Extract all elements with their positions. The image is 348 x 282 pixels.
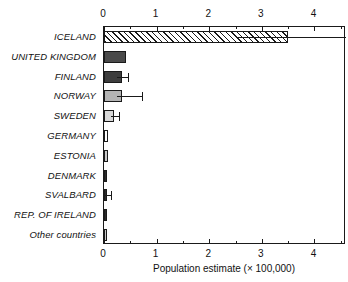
- bot-axis-tick: [130, 241, 131, 244]
- bot-axis-tick: [209, 239, 210, 244]
- x-axis-title: Population estimate (× 100,000): [103, 263, 345, 274]
- top-axis-tick: [236, 26, 237, 29]
- bot-axis-tick: [157, 239, 158, 244]
- error-bar: [237, 37, 346, 38]
- category-label: ESTONIA: [54, 149, 96, 160]
- category-axis-labels: ICELANDUNITED KINGDOMFINLANDNORWAYSWEDEN…: [0, 26, 99, 244]
- bot-axis-tick: [314, 239, 315, 244]
- top-axis-tick: [341, 26, 342, 29]
- bot-axis-tick: [262, 239, 263, 244]
- bot-axis-tick: [341, 241, 342, 244]
- bottom-tick-label: 4: [311, 248, 317, 259]
- bot-axis-tick: [183, 241, 184, 244]
- bar: [104, 150, 108, 162]
- category-label: UNITED KINGDOM: [11, 50, 96, 61]
- bar: [104, 170, 107, 182]
- population-bar-chart: 01234 01234 ICELANDUNITED KINGDOMFINLAND…: [0, 0, 348, 282]
- top-tick-label: 1: [153, 8, 159, 19]
- category-label: NORWAY: [54, 90, 96, 101]
- error-bar: [117, 77, 128, 78]
- category-label: REP. OF IRELAND: [14, 209, 96, 220]
- error-bar-cap: [111, 191, 112, 200]
- category-label: Other countries: [30, 229, 96, 240]
- top-tick-label: 4: [311, 8, 317, 19]
- error-bar-cap: [128, 73, 129, 82]
- top-axis-tick: [130, 26, 131, 29]
- category-label: SVALBARD: [45, 189, 96, 200]
- top-axis-tick: [288, 26, 289, 29]
- bar: [104, 51, 126, 63]
- error-bar-cap: [119, 112, 120, 121]
- plot-area: [103, 26, 345, 244]
- top-axis-tick: [104, 26, 105, 31]
- category-label: GERMANY: [47, 130, 96, 141]
- bar: [104, 130, 108, 142]
- bot-axis-tick: [288, 241, 289, 244]
- top-axis-tick: [314, 26, 315, 31]
- top-axis-tick: [209, 26, 210, 31]
- error-bar-cap: [142, 92, 143, 101]
- bottom-tick-label: 2: [205, 248, 211, 259]
- bottom-tick-label: 3: [258, 248, 264, 259]
- bottom-tick-label: 1: [153, 248, 159, 259]
- bar: [104, 209, 107, 221]
- top-axis-tick: [157, 26, 158, 31]
- category-label: SWEDEN: [54, 110, 96, 121]
- category-label: FINLAND: [55, 70, 96, 81]
- top-tick-label: 3: [258, 8, 264, 19]
- category-label: DENMARK: [48, 169, 96, 180]
- bars-layer: [104, 27, 344, 243]
- top-tick-label: 2: [205, 8, 211, 19]
- top-tick-label: 0: [100, 8, 106, 19]
- bottom-tick-label: 0: [100, 248, 106, 259]
- top-axis-tick: [262, 26, 263, 31]
- error-bar: [111, 116, 119, 117]
- error-bar: [117, 96, 142, 97]
- bot-axis-tick: [236, 241, 237, 244]
- category-label: ICELAND: [54, 30, 96, 41]
- top-axis-tick: [183, 26, 184, 29]
- bot-axis-tick: [104, 239, 105, 244]
